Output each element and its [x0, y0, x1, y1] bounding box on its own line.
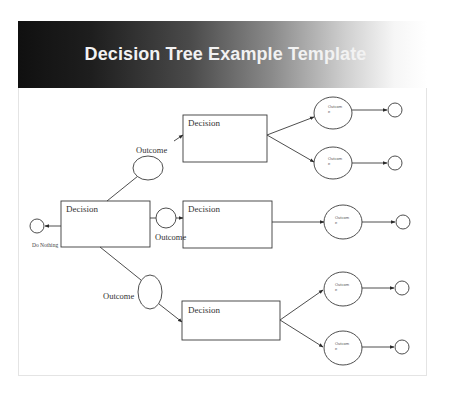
- leaf-label-3a: Outcom e: [335, 282, 351, 292]
- outcome-node-3: [138, 275, 162, 309]
- connector-decision-1-to-leaf-1b: [267, 135, 314, 162]
- connector-root-to-outcome-1: [107, 176, 138, 201]
- connector-decision-3-to-leaf-3a: [280, 290, 323, 320]
- slide-canvas: Decision Tree Example Template: [0, 0, 449, 398]
- decision-label-3: Decision: [188, 306, 220, 315]
- outcome-label-3: Outcome: [103, 292, 134, 301]
- connector-outcome-3-to-decision-3: [159, 304, 182, 322]
- do-nothing-label: Do Nothing: [32, 242, 62, 248]
- end-node-2: [396, 215, 410, 229]
- end-node-3a: [395, 281, 409, 295]
- decision-label-2: Decision: [188, 205, 220, 214]
- root-decision-label: Decision: [66, 205, 98, 214]
- outcome-node-1: [133, 156, 163, 180]
- decision-label-1: Decision: [188, 119, 220, 128]
- connector-decision-3-to-leaf-3b: [280, 320, 323, 347]
- leaf-label-1b: Outcom e: [328, 156, 344, 166]
- outcome-label-2: Outcome: [155, 233, 186, 242]
- outcome-label-1: Outcome: [136, 146, 167, 155]
- end-node-1a: [388, 103, 402, 117]
- do-nothing-terminal-circle: [30, 219, 44, 233]
- leaf-label-1a: Outcom e: [328, 104, 344, 114]
- connector-root-to-outcome-3: [100, 247, 141, 280]
- end-node-3b: [395, 340, 409, 354]
- end-node-1b: [388, 156, 402, 170]
- leaf-label-2: Outcom e: [335, 215, 351, 225]
- leaf-label-3b: Outcom e: [335, 341, 351, 351]
- connector-decision-1-to-leaf-1a: [267, 117, 314, 135]
- outcome-node-2: [156, 208, 176, 228]
- connector-outcome-1-to-decision-1: [174, 135, 183, 141]
- decision-tree-diagram: [0, 0, 449, 398]
